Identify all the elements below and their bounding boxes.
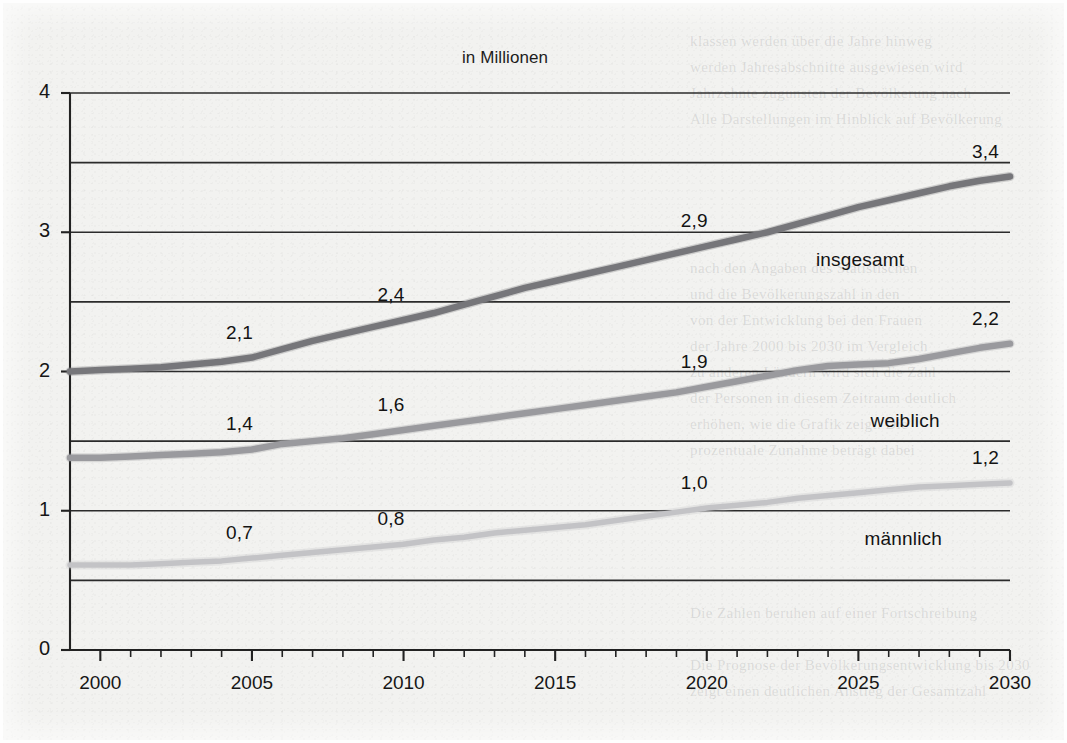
value-label: 2,9	[681, 210, 708, 232]
value-label: 1,6	[378, 394, 405, 416]
x-axis-tick-label: 2010	[359, 672, 449, 694]
gridlines	[70, 93, 1010, 580]
value-label: 2,1	[226, 322, 253, 344]
scanned-page: klassen werden über die Jahre hinweg wer…	[0, 0, 1067, 743]
x-axis-tick-label: 2020	[662, 672, 752, 694]
series-label-weiblich: weiblich	[871, 410, 940, 432]
value-label: 0,8	[378, 508, 405, 530]
value-label: 1,9	[681, 351, 708, 373]
y-axis-tick-label: 3	[20, 219, 50, 242]
line-chart: in Millionen 01234 200020052010201520202…	[0, 0, 1067, 743]
value-label: 1,4	[226, 413, 253, 435]
y-axis-tick-label: 2	[20, 359, 50, 382]
x-axis-tick-label: 2030	[965, 672, 1055, 694]
value-label: 1,2	[972, 447, 999, 469]
series-line-halo-männlich	[70, 483, 1010, 565]
value-label: 3,4	[972, 141, 999, 163]
y-axis-tick-label: 4	[20, 80, 50, 103]
x-axis-tick-label: 2025	[813, 672, 903, 694]
value-label: 2,4	[378, 284, 405, 306]
plot-area	[0, 0, 1067, 743]
value-label: 0,7	[226, 522, 253, 544]
y-axis-tick-label: 0	[20, 637, 50, 660]
series-label-insgesamt: insgesamt	[816, 249, 904, 271]
x-axis-ticks	[100, 650, 1010, 661]
x-axis-tick-label: 2005	[207, 672, 297, 694]
series-label-männlich: männlich	[864, 528, 942, 550]
series-line-insgesamt	[70, 177, 1010, 372]
x-axis-tick-label: 2000	[55, 672, 145, 694]
x-axis-tick-label: 2015	[510, 672, 600, 694]
value-label: 2,2	[972, 308, 999, 330]
value-label: 1,0	[681, 472, 708, 494]
y-axis-tick-label: 1	[20, 498, 50, 521]
